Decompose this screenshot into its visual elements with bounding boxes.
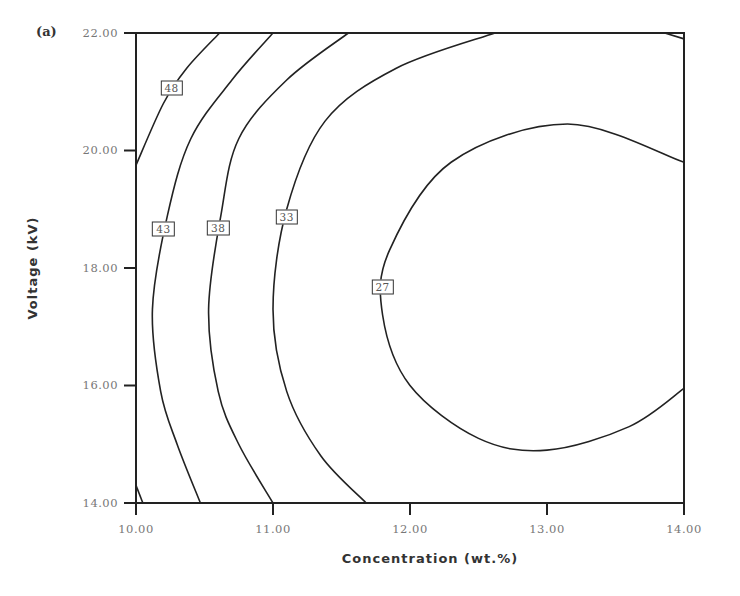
x-tick-label: 11.00 xyxy=(233,522,313,536)
contour-level-label: 48 xyxy=(160,81,182,96)
contour-line xyxy=(136,485,143,503)
y-ticks xyxy=(124,33,136,503)
y-tick-label: 14.00 xyxy=(38,496,118,510)
x-ticks xyxy=(136,503,684,515)
y-axis-label: Voltage (kV) xyxy=(25,188,40,348)
y-tick-label: 22.00 xyxy=(38,26,118,40)
x-tick-label: 14.00 xyxy=(644,522,724,536)
x-tick-label: 10.00 xyxy=(96,522,176,536)
x-tick-label: 13.00 xyxy=(507,522,587,536)
contour-plot: (a) 22.00 20.00 18.00 16.00 14.00 10.00 … xyxy=(0,0,740,596)
contour-line xyxy=(209,33,349,503)
contour-line xyxy=(273,33,495,503)
contour-line xyxy=(380,124,684,451)
contour-level-label: 27 xyxy=(371,279,393,294)
x-axis-label: Concentration (wt.%) xyxy=(310,551,550,566)
y-tick-label: 16.00 xyxy=(38,378,118,392)
y-tick-label: 20.00 xyxy=(38,143,118,157)
contour-level-label: 33 xyxy=(276,210,298,225)
plot-frame xyxy=(136,33,684,503)
contour-level-label: 43 xyxy=(152,222,174,237)
contour-line xyxy=(136,33,220,165)
contour-level-label: 38 xyxy=(207,221,229,236)
y-tick-label: 18.00 xyxy=(38,261,118,275)
x-tick-label: 12.00 xyxy=(370,522,450,536)
contour-lines xyxy=(136,33,684,503)
